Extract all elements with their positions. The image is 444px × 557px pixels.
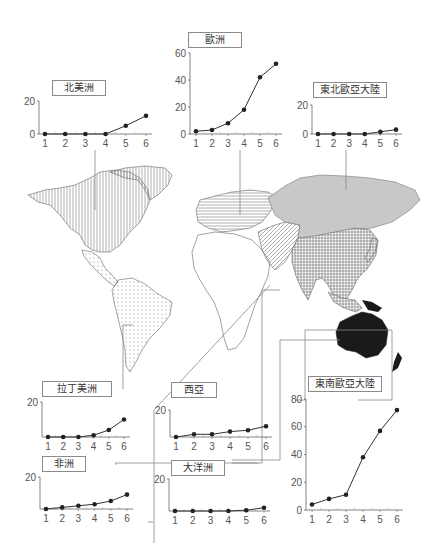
y-tick-label: 60 (175, 48, 187, 59)
series-line (196, 64, 276, 132)
data-point (103, 132, 108, 137)
data-point (60, 505, 65, 510)
y-tick-label: 40 (291, 449, 303, 460)
y-tick-label: 20 (155, 405, 167, 416)
data-point (43, 132, 48, 137)
y-tick-label: 20 (297, 100, 309, 111)
x-tick-label: 3 (209, 441, 215, 452)
chart-northeast-eurasia: 020123456 (297, 100, 402, 150)
x-tick-label: 4 (92, 513, 98, 524)
data-point (226, 509, 231, 514)
data-point (107, 428, 112, 433)
x-tick-label: 6 (124, 513, 130, 524)
x-tick-label: 6 (121, 441, 127, 452)
region-oceania (336, 312, 388, 358)
x-tick-label: 2 (59, 513, 65, 524)
x-tick-label: 5 (257, 138, 263, 149)
data-point (378, 429, 383, 434)
data-point (210, 128, 215, 133)
series-line (48, 420, 124, 438)
data-point (258, 75, 263, 80)
x-tick-label: 3 (346, 138, 352, 149)
x-tick-label: 1 (315, 138, 321, 149)
region-central-america (82, 250, 118, 286)
data-point (208, 509, 213, 514)
chart-west-asia: 20123456 (155, 405, 272, 453)
y-tick-label: 0 (302, 129, 308, 140)
x-tick-label: 1 (45, 441, 51, 452)
data-point (63, 132, 68, 137)
data-point (344, 492, 349, 497)
x-tick-label: 2 (191, 441, 197, 452)
data-point (61, 435, 66, 440)
series-line (46, 495, 127, 509)
region-europe (196, 190, 278, 232)
y-tick-label: 20 (24, 96, 36, 107)
x-tick-label: 3 (83, 138, 89, 149)
x-tick-label: 5 (106, 441, 112, 452)
x-tick-label: 1 (43, 513, 49, 524)
data-point (327, 497, 332, 502)
data-point (226, 121, 231, 126)
x-tick-label: 5 (123, 138, 129, 149)
x-tick-label: 3 (76, 513, 82, 524)
x-tick-label: 2 (190, 515, 196, 526)
chart-oceania: 20123456 (154, 474, 270, 527)
data-point (210, 432, 215, 437)
data-point (174, 435, 179, 440)
data-point (262, 506, 267, 511)
data-point (76, 435, 81, 440)
series-line (312, 410, 397, 504)
y-tick-label: 20 (154, 474, 166, 485)
region-south-america (112, 278, 172, 372)
data-point (310, 502, 315, 507)
x-tick-label: 4 (226, 515, 232, 526)
data-point (347, 132, 352, 137)
data-point (144, 114, 149, 119)
region-africa (192, 232, 270, 350)
x-tick-label: 4 (91, 441, 97, 452)
data-point (246, 428, 251, 433)
data-point (394, 127, 399, 132)
y-tick-label: 20 (175, 102, 187, 113)
x-tick-label: 3 (208, 515, 214, 526)
x-tick-label: 1 (309, 514, 315, 525)
data-point (76, 504, 81, 509)
y-tick-label: 20 (291, 477, 303, 488)
data-point (192, 432, 197, 437)
data-point (194, 129, 199, 134)
x-tick-label: 2 (60, 441, 66, 452)
chart-north-america: 020123456 (24, 96, 152, 150)
x-tick-label: 5 (108, 513, 114, 524)
x-tick-label: 3 (76, 441, 82, 452)
series-line (45, 116, 146, 134)
data-point (363, 132, 368, 137)
y-tick-label: 20 (27, 397, 39, 408)
x-tick-label: 6 (394, 514, 400, 525)
x-tick-label: 5 (378, 138, 384, 149)
y-tick-label: 0 (180, 129, 186, 140)
x-tick-label: 1 (42, 138, 48, 149)
x-tick-label: 2 (209, 138, 215, 149)
x-tick-label: 1 (193, 138, 199, 149)
region-new-zealand (392, 352, 402, 372)
region-southeast-eurasia (292, 228, 378, 305)
x-tick-label: 2 (331, 138, 337, 149)
data-point (274, 62, 279, 67)
y-tick-label: 40 (175, 75, 187, 86)
data-point (91, 433, 96, 438)
data-point (44, 507, 49, 512)
x-tick-label: 2 (62, 138, 68, 149)
label-north-america: 北美洲 (52, 80, 106, 96)
data-point (191, 509, 196, 514)
x-tick-label: 3 (343, 514, 349, 525)
x-tick-label: 4 (362, 138, 368, 149)
data-point (83, 132, 88, 137)
chart-europe: 0204060123456 (175, 48, 282, 150)
label-europe: 歐洲 (188, 32, 242, 48)
data-point (361, 455, 366, 460)
label-africa: 非洲 (42, 456, 86, 472)
data-point (264, 424, 269, 429)
x-tick-label: 5 (245, 441, 251, 452)
x-tick-label: 6 (273, 138, 279, 149)
